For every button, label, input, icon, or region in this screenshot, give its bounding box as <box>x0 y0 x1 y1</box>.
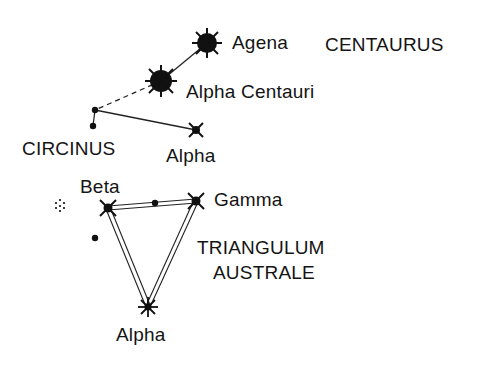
circinus-star-dot <box>92 107 98 113</box>
alpha-centauri-star-icon <box>145 65 177 97</box>
circinus-label: CIRCINUS <box>22 138 115 160</box>
centaurus-label: CENTAURUS <box>325 34 444 56</box>
triangulum-label: TRIANGULUM <box>197 237 325 259</box>
australe-label: AUSTRALE <box>213 262 315 284</box>
circinus-line-to-alpha <box>95 110 196 130</box>
beta-label: Beta <box>80 176 120 198</box>
circinus-star-dot <box>90 123 96 129</box>
alpha-tra-star-icon <box>138 297 158 317</box>
gamma-label: Gamma <box>214 189 283 211</box>
triangle-outline <box>106 199 198 307</box>
star-cluster-icon <box>55 199 65 212</box>
alpha-circinus-label: Alpha <box>166 145 216 167</box>
agena-label: Agena <box>232 32 288 54</box>
lone-star-dot <box>92 235 98 241</box>
alpha-tra-label: Alpha <box>116 324 166 346</box>
agena-star-icon <box>192 28 222 58</box>
alpha-centauri-label: Alpha Centauri <box>186 81 315 103</box>
alpha-circinus-star-icon <box>189 123 203 137</box>
triangle-edge-star-dot <box>152 200 158 206</box>
